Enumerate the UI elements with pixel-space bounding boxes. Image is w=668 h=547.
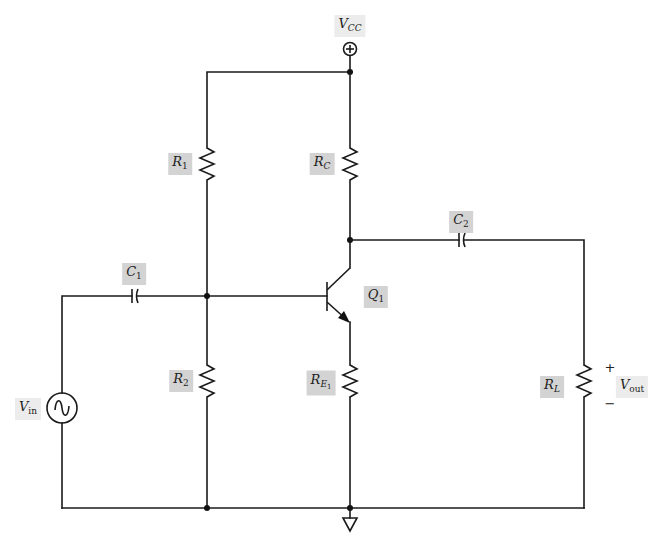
polarity-minus: − — [605, 396, 616, 411]
transistor-q1 — [327, 268, 350, 323]
resistor-r2 — [200, 365, 214, 397]
label-c1: C1 — [122, 263, 146, 285]
label-r1: R1 — [168, 153, 192, 175]
vcc-terminal — [344, 43, 357, 73]
label-rl: RL — [540, 376, 564, 398]
resistor-rc — [343, 148, 357, 180]
wire-vin-c1 — [62, 296, 132, 393]
sine-wave-icon — [55, 401, 69, 416]
resistor-rl — [577, 365, 591, 397]
label-rc: RC — [310, 153, 335, 175]
polarity-plus: + — [605, 360, 616, 375]
ac-source-vin — [47, 393, 77, 423]
circuit-schematic — [0, 0, 668, 547]
ground-triangle-icon — [343, 508, 357, 531]
junction-ground-r2 — [204, 505, 210, 511]
wire-c2-rl — [464, 240, 584, 365]
junction-base — [204, 293, 210, 299]
label-vin: Vin — [15, 398, 41, 420]
wire-top-rail — [207, 72, 350, 148]
label-q1: Q1 — [364, 286, 388, 308]
label-re1: RE1 — [307, 371, 336, 396]
resistor-r1 — [200, 148, 214, 180]
resistor-re1 — [343, 365, 357, 397]
label-vcc: VCC — [334, 15, 365, 37]
label-c2: C2 — [449, 211, 473, 233]
label-r2: R2 — [169, 370, 193, 392]
label-vout: Vout — [616, 376, 648, 398]
